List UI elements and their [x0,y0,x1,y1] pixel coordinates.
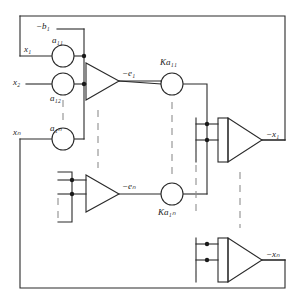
junction-dot-layer [70,54,209,262]
label-gain-Ka1n: Ka₁ₙ [158,208,176,217]
junction-a11-bus [82,54,86,58]
junction-intn-in-1 [205,242,209,246]
gain-pot-Ka1n [161,183,183,205]
label-input-x2: x₂ [13,78,20,87]
junction-ampn-in-1 [70,178,74,182]
integrator-xn-body [228,238,262,282]
feedback-rail-bottom [20,139,285,288]
integrator-x1-capacitor [218,118,228,162]
analog-computer-diagram: −b₁ a₁₁ x₁ x₂ a₁₂ a₁ₙ xₙ −e₁ −eₙ Ka₁₁ Ka… [0,0,301,306]
junction-int1-in-2 [205,138,209,142]
label-output-e1: −e₁ [122,69,135,78]
junction-intn-in-2 [205,258,209,262]
label-input-x1: x₁ [24,45,31,54]
schematic-canvas [0,0,301,306]
coefficient-pot-a11 [52,45,74,67]
junction-a12-bus [82,82,86,86]
gain-bus-right [183,84,207,194]
label-output-en: −eₙ [122,182,136,191]
label-a1n: a₁ₙ [50,124,62,133]
junction-ampn-in-2 [70,192,74,196]
gain-pot-Ka11 [161,73,183,95]
integrator-x1-body [228,118,262,162]
ellipsis-layer [58,100,240,282]
integrator-xn-capacitor [218,238,228,282]
label-a12: a₁₂ [50,94,61,103]
junction-int1-in-1 [205,122,209,126]
label-output-xn: −xₙ [266,250,280,259]
label-output-x1: −x₁ [266,130,279,139]
amplifier-en-body [86,175,119,212]
label-a11: a₁₁ [52,36,63,45]
label-gain-Ka11: Ka₁₁ [160,58,177,67]
label-input-xn: xₙ [13,128,21,137]
label-bias-b1: −b₁ [36,22,50,31]
amplifier-e1-body [86,63,119,100]
coefficient-pot-a12 [52,73,74,95]
